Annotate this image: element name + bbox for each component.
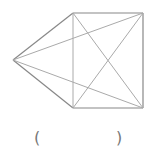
outline-lines <box>13 13 143 108</box>
edge-apex-bottom <box>13 60 73 108</box>
edge-apex-top <box>13 13 73 60</box>
answer-paren-right: ) <box>116 128 122 148</box>
geometry-figure <box>0 0 157 151</box>
inner-lines <box>13 13 143 108</box>
answer-paren-left: ( <box>34 128 40 148</box>
